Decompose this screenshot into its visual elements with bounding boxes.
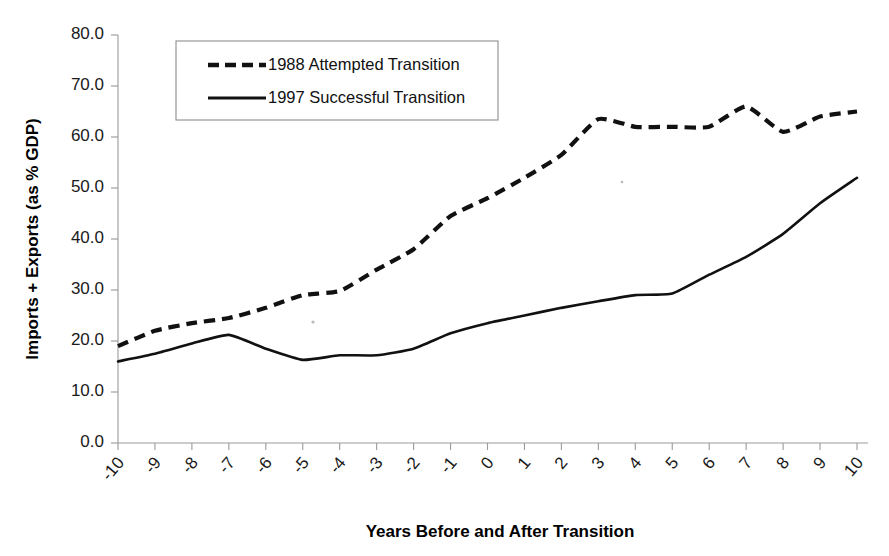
y-tick-label: 70.0	[71, 75, 104, 94]
y-tick-label: 60.0	[71, 126, 104, 145]
y-tick-label: 80.0	[71, 24, 104, 43]
x-axis-tick-labels: -10-9-8-7-6-5-4-3-2-1012345678910	[98, 453, 867, 484]
y-axis-title: Imports + Exports (as % GDP)	[23, 118, 42, 359]
x-tick-label: -3	[362, 453, 386, 477]
x-axis: -10-9-8-7-6-5-4-3-2-1012345678910	[98, 443, 868, 484]
x-tick-label: -5	[289, 453, 313, 477]
y-tick-label: 40.0	[71, 228, 104, 247]
x-tick-label: 0	[477, 453, 498, 472]
x-tick-label: -8	[178, 453, 202, 477]
x-tick-label: 7	[736, 453, 757, 472]
x-tick-label: -9	[141, 453, 165, 477]
data-series-group	[118, 106, 857, 361]
x-tick-label: -6	[252, 453, 276, 477]
y-axis-tick-labels: 0.010.020.030.040.050.060.070.080.0	[71, 24, 104, 451]
series-line-1988-attempted-transition	[118, 106, 857, 346]
scan-artifact-speck-2	[621, 181, 624, 184]
y-tick-label: 10.0	[71, 381, 104, 400]
chart-legend: 1988 Attempted Transition 1997 Successfu…	[176, 41, 498, 120]
x-tick-label: 10	[840, 453, 867, 480]
x-tick-label: 6	[699, 453, 720, 472]
y-tick-label: 0.0	[80, 432, 104, 451]
legend-box	[176, 41, 498, 120]
x-tick-label: -7	[215, 453, 239, 477]
chart-canvas: 0.010.020.030.040.050.060.070.080.0 -10-…	[0, 0, 889, 556]
y-axis-ticks	[111, 35, 118, 443]
x-tick-label: 4	[625, 453, 646, 472]
x-tick-label: 3	[588, 453, 609, 472]
legend-label-0: 1988 Attempted Transition	[268, 55, 460, 73]
x-tick-label: -4	[325, 453, 349, 477]
series-line-1997-successful-transition	[118, 178, 857, 362]
x-tick-label: 5	[662, 453, 683, 472]
chart-figure: 0.010.020.030.040.050.060.070.080.0 -10-…	[0, 0, 889, 556]
x-tick-label: -10	[98, 453, 128, 484]
y-axis: 0.010.020.030.040.050.060.070.080.0	[71, 24, 118, 451]
x-tick-label: -2	[399, 453, 423, 477]
legend-label-1: 1997 Successful Transition	[268, 88, 465, 106]
x-tick-label: 1	[514, 453, 535, 472]
x-axis-title: Years Before and After Transition	[366, 522, 635, 541]
scan-artifact-speck	[311, 320, 314, 323]
x-tick-label: 8	[773, 453, 794, 472]
x-tick-label: 2	[551, 453, 572, 472]
y-tick-label: 30.0	[71, 279, 104, 298]
x-tick-label: -1	[436, 453, 460, 477]
y-tick-label: 20.0	[71, 330, 104, 349]
x-axis-ticks	[118, 443, 857, 450]
y-tick-label: 50.0	[71, 177, 104, 196]
x-tick-label: 9	[809, 453, 830, 472]
